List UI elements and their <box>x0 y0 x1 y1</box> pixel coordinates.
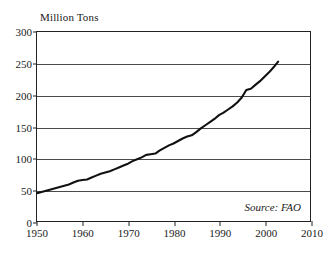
x-axis-tick-label: 1990 <box>209 228 231 239</box>
data-series-layer <box>37 32 310 221</box>
x-axis-tick-label: 1950 <box>26 228 48 239</box>
x-axis-tick-mark <box>82 221 83 226</box>
x-axis-tick-mark <box>266 221 267 226</box>
production-line <box>37 62 278 194</box>
x-axis-tick-label: 2010 <box>301 228 323 239</box>
x-axis-tick-label: 2000 <box>255 228 277 239</box>
x-axis-tick-mark <box>312 221 313 226</box>
y-axis-tick-label: 300 <box>16 27 33 38</box>
x-axis-tick-mark <box>220 221 221 226</box>
y-axis-tick-label: 200 <box>16 90 33 101</box>
x-axis-tick-label: 1960 <box>72 228 94 239</box>
x-axis-tick-mark <box>37 221 38 226</box>
y-axis-tick-label: 150 <box>16 122 33 133</box>
x-axis-tick-label: 1970 <box>118 228 140 239</box>
x-axis-tick-mark <box>128 221 129 226</box>
y-axis-tick-label: 50 <box>21 186 32 197</box>
plot-area: 050100150200250300 195019601970198019902… <box>36 31 311 222</box>
y-axis-tick-label: 100 <box>16 154 33 165</box>
chart-figure: Million Tons 050100150200250300 19501960… <box>0 0 334 256</box>
y-axis-unit-label: Million Tons <box>40 12 99 23</box>
x-axis-tick-mark <box>174 221 175 226</box>
source-annotation: Source: FAO <box>244 202 301 213</box>
x-axis-tick-label: 1980 <box>164 228 186 239</box>
y-axis-tick-label: 250 <box>16 58 33 69</box>
